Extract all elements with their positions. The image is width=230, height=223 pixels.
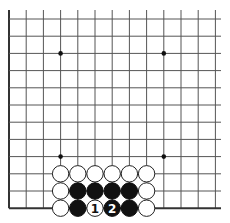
white-stone xyxy=(104,166,120,182)
white-stone xyxy=(52,183,68,199)
white-stone-move-1: 1 xyxy=(87,200,103,216)
white-stone xyxy=(52,200,68,216)
black-stone xyxy=(70,200,86,216)
star-point xyxy=(162,154,167,159)
black-stone xyxy=(87,183,103,199)
stones: 12 xyxy=(52,166,154,217)
star-point xyxy=(58,51,63,56)
black-stone-move-2: 2 xyxy=(104,200,120,216)
white-stone xyxy=(87,166,103,182)
white-stone xyxy=(70,166,86,182)
star-point xyxy=(58,154,63,159)
black-stone xyxy=(104,183,120,199)
white-stone xyxy=(138,183,154,199)
black-stone xyxy=(70,183,86,199)
star-point xyxy=(162,51,167,56)
white-stone xyxy=(138,166,154,182)
white-stone xyxy=(52,166,68,182)
move-number-label: 1 xyxy=(91,202,99,216)
move-number-label: 2 xyxy=(108,202,116,216)
go-board: 12 xyxy=(0,0,230,223)
black-stone xyxy=(121,183,137,199)
white-stone xyxy=(121,166,137,182)
black-stone xyxy=(121,200,137,216)
white-stone xyxy=(138,200,154,216)
